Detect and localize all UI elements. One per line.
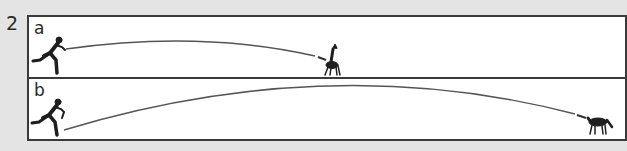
running-man-icon-a bbox=[33, 37, 65, 73]
running-man-icon-b bbox=[32, 99, 64, 135]
deer-icon bbox=[325, 44, 340, 75]
horse-icon bbox=[588, 118, 612, 134]
trajectory-a bbox=[66, 41, 315, 56]
trajectory-b bbox=[64, 86, 575, 130]
